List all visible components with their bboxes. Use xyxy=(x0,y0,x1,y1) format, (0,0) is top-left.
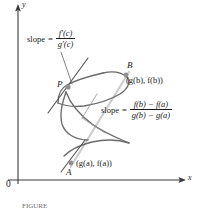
x-axis-label: x xyxy=(188,174,192,182)
curve-lower-branch xyxy=(64,140,129,156)
curve-left-lobe xyxy=(61,92,88,140)
point-label-b: B xyxy=(127,61,133,70)
point-coord-b: (g(b), f(b)) xyxy=(126,76,163,85)
tangent-slope-word: slope xyxy=(27,34,45,44)
secant-slope-denominator: g(b) − g(a) xyxy=(130,110,172,120)
secant-slope-equals: = xyxy=(122,105,127,115)
secant-slope-word: slope xyxy=(101,105,119,115)
secant-slope-numerator: f(b) − f(a) xyxy=(132,99,171,109)
secant-slope-fraction: f(b) − f(a) g(b) − g(a) xyxy=(130,99,172,121)
y-axis-label: y xyxy=(22,1,26,9)
figure-container: y x 0 P B (g(b), f(b)) A (g(a), f(a)) sl… xyxy=(0,0,198,209)
tangent-slope-annotation: slope = f′(c) g′(c) xyxy=(27,28,75,50)
point-coord-a: (g(a), f(a)) xyxy=(76,159,112,168)
tangent-slope-equals: = xyxy=(48,34,53,44)
point-label-a: A xyxy=(66,168,72,177)
figure-caption: FIGURE xyxy=(22,202,47,209)
point-label-p: P xyxy=(57,80,63,89)
leader-lines-group xyxy=(61,52,105,172)
point-marker-p xyxy=(65,84,70,89)
curve-through-p xyxy=(58,73,103,103)
curve-upper-branch xyxy=(103,72,127,77)
origin-label: 0 xyxy=(6,180,11,190)
tangent-slope-fraction: f′(c) g′(c) xyxy=(56,28,76,50)
secant-slope-annotation: slope = f(b) − f(a) g(b) − g(a) xyxy=(101,99,172,121)
point-marker-a xyxy=(69,161,74,166)
tangent-slope-numerator: f′(c) xyxy=(57,28,75,38)
tangent-slope-denominator: g′(c) xyxy=(56,39,76,49)
